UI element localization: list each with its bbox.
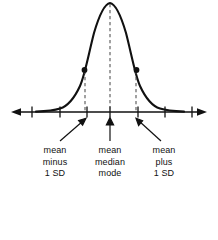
label-mean-plus-1sd: mean plus 1 SD	[131, 145, 197, 180]
inflection-dot-left	[82, 67, 88, 73]
label-mean-plus-1sd-line3: 1 SD	[131, 168, 197, 180]
label-mean-plus-1sd-line1: mean	[131, 145, 197, 157]
inflection-dot-right	[134, 67, 140, 73]
label-mean-plus-1sd-line2: plus	[131, 157, 197, 169]
